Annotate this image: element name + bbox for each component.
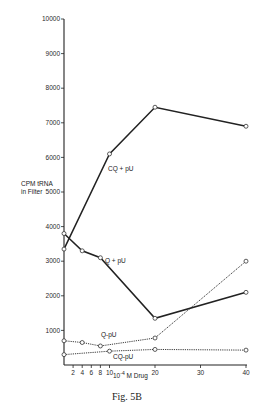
y-tick-label: 6000 <box>46 154 61 161</box>
series-line <box>64 107 246 249</box>
series-label: CQ-pU <box>113 353 134 361</box>
data-point-marker <box>244 259 248 263</box>
data-point-marker <box>244 348 248 352</box>
data-point-marker <box>80 341 84 345</box>
data-point-marker <box>98 256 102 260</box>
line-chart: 1000200030004000500060007000800090001000… <box>0 0 263 411</box>
data-point-marker <box>62 232 66 236</box>
series-label: Q-pU <box>101 331 117 339</box>
x-tick-label: 8 <box>99 369 103 376</box>
figure-caption: Fig. 5B <box>112 391 142 402</box>
x-axis-label: 10-4 M Drug <box>113 370 148 379</box>
y-axis-label: CPM tRNA in Filter <box>21 180 53 196</box>
y-tick-label: 3000 <box>46 257 61 264</box>
y-tick-label: 4000 <box>46 223 61 230</box>
data-point-marker <box>244 290 248 294</box>
data-point-marker <box>153 336 157 340</box>
y-tick-label: 10000 <box>42 15 60 22</box>
x-tick-label: 40 <box>242 369 250 376</box>
data-point-marker <box>153 347 157 351</box>
axes: 1000200030004000500060007000800090001000… <box>42 15 250 376</box>
y-tick-label: 7000 <box>46 119 61 126</box>
data-point-marker <box>62 353 66 357</box>
data-point-marker <box>80 249 84 253</box>
data-point-marker <box>62 339 66 343</box>
x-tick-label: 6 <box>89 369 93 376</box>
y-tick-label: 2000 <box>46 292 61 299</box>
data-point-marker <box>62 247 66 251</box>
x-tick-label: 30 <box>197 369 205 376</box>
y-tick-label: 9000 <box>46 50 61 57</box>
series-label: Q + pU <box>105 257 126 265</box>
series-label: CQ + pU <box>108 165 134 173</box>
data-point-marker <box>244 124 248 128</box>
data-point-marker <box>153 316 157 320</box>
series-line <box>64 261 246 346</box>
x-tick-label: 20 <box>151 369 159 376</box>
x-tick-label: 2 <box>71 369 75 376</box>
series-labels: CQ + pUQ + pUQ-pUCQ-pU <box>101 165 134 361</box>
series-group <box>62 105 248 356</box>
y-tick-label: 8000 <box>46 84 61 91</box>
data-point-marker <box>98 344 102 348</box>
y-tick-label: 1000 <box>46 327 61 334</box>
data-point-marker <box>108 152 112 156</box>
data-point-marker <box>108 349 112 353</box>
x-tick-label: 4 <box>80 369 84 376</box>
data-point-marker <box>153 105 157 109</box>
series-line <box>64 234 246 319</box>
y-axis-label-line2: in Filter <box>21 188 53 196</box>
y-axis-label-line1: CPM tRNA <box>21 180 53 188</box>
